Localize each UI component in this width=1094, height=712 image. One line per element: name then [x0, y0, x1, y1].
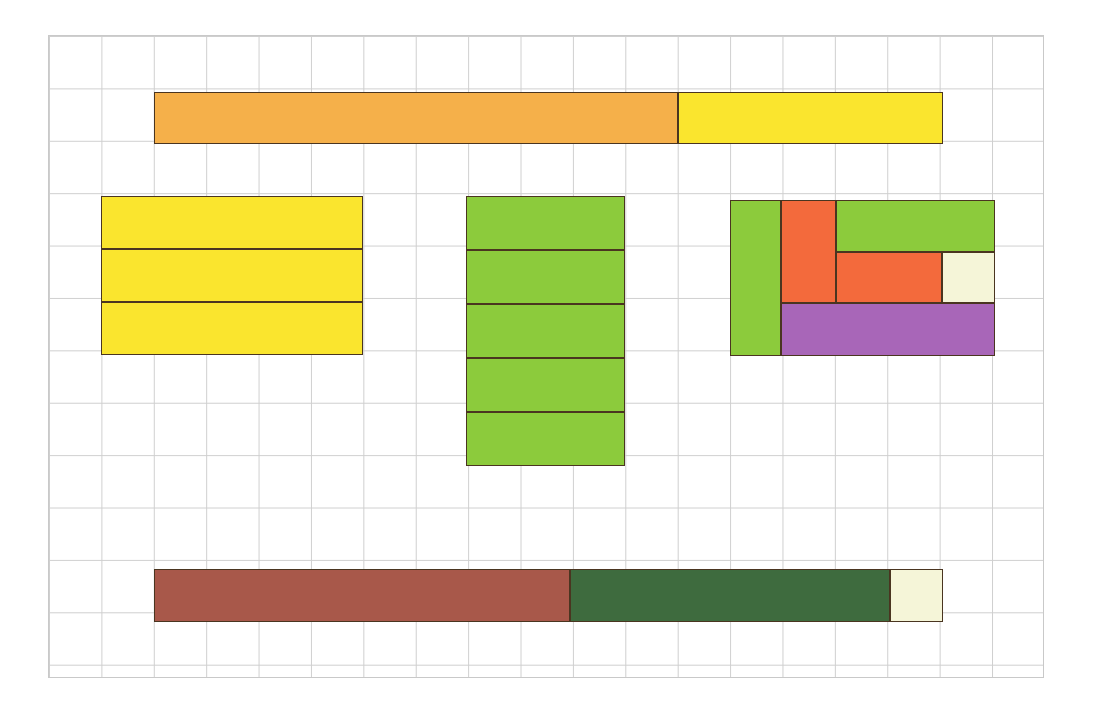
mixed-block: [730, 200, 995, 356]
green-row-4: [466, 358, 625, 412]
bottom-bar: [154, 569, 943, 622]
yellow-row-3: [101, 302, 363, 355]
green-row-3: [466, 304, 625, 358]
green-block: [466, 196, 625, 466]
top-bar-yellow: [678, 92, 943, 144]
mixed-redorange-tall: [781, 200, 836, 303]
yellow-row-2: [101, 249, 363, 302]
bottom-bar-cream: [890, 569, 943, 622]
mixed-redorange-mid: [836, 252, 942, 303]
bottom-bar-brown: [154, 569, 570, 622]
mixed-green-left: [730, 200, 781, 356]
bottom-bar-darkgreen: [570, 569, 890, 622]
green-row-5: [466, 412, 625, 466]
mixed-green-top: [836, 200, 995, 252]
yellow-block: [101, 196, 363, 355]
top-bar-orange: [154, 92, 678, 144]
mixed-purple: [781, 303, 995, 356]
top-bar: [154, 92, 943, 144]
figure-canvas: [0, 0, 1094, 712]
green-row-1: [466, 196, 625, 250]
yellow-row-1: [101, 196, 363, 249]
green-row-2: [466, 250, 625, 304]
mixed-cream: [942, 252, 995, 303]
